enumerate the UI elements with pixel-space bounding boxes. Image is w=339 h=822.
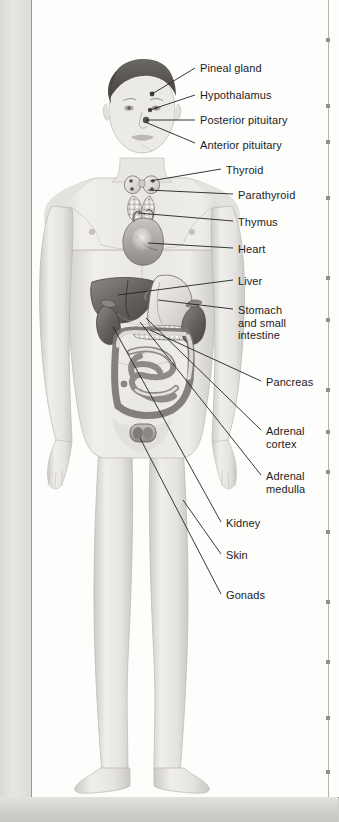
label-thyroid: Thyroid — [226, 164, 263, 177]
gonads-organ — [130, 424, 156, 442]
label-pancreas: Pancreas — [266, 376, 313, 389]
rule-tick — [326, 470, 330, 474]
page-bottom-shadow — [0, 797, 338, 822]
label-posterior-pituitary: Posterior pituitary — [200, 114, 288, 127]
rule-tick — [326, 770, 330, 774]
rule-tick — [326, 318, 330, 322]
label-parathyroid: Parathyroid — [238, 189, 295, 202]
label-gonads: Gonads — [226, 589, 265, 602]
rule-tick — [326, 430, 330, 434]
label-anterior-pituitary: Anterior pituitary — [200, 139, 282, 152]
rule-tick — [326, 140, 330, 144]
label-liver: Liver — [238, 275, 262, 288]
leader-line-skin — [183, 500, 221, 554]
rule-tick — [326, 196, 330, 200]
rule-tick — [326, 388, 330, 392]
rule-tick — [326, 38, 330, 42]
label-stomach-and-small-intestine: Stomach and small intestine — [238, 304, 286, 342]
rule-tick — [326, 276, 330, 280]
rule-tick — [326, 600, 330, 604]
label-heart: Heart — [238, 243, 265, 256]
label-pineal-gland: Pineal gland — [200, 62, 262, 75]
label-hypothalamus: Hypothalamus — [200, 89, 272, 102]
label-thymus: Thymus — [238, 216, 278, 229]
rule-tick — [326, 660, 330, 664]
label-kidney: Kidney — [226, 517, 260, 530]
rule-tick — [326, 104, 330, 108]
rule-tick — [326, 530, 330, 534]
rule-tick — [326, 716, 330, 720]
label-adrenal-medulla: Adrenal medulla — [266, 470, 305, 495]
label-skin: Skin — [226, 549, 248, 562]
label-adrenal-cortex: Adrenal cortex — [266, 425, 305, 450]
